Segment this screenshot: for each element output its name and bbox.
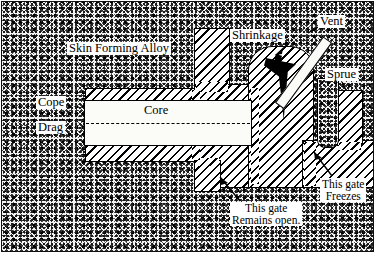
label-shrinkage: Shrinkage [230, 29, 285, 42]
label-gate-open-line1: This gate [232, 202, 300, 214]
label-vent: Vent [318, 15, 345, 28]
sprue-leader [342, 82, 346, 90]
label-gate-freeze-line1: This gate [322, 178, 364, 190]
casting-diagram-figure: Skin Forming Alloy Cope Drag Core Shrink… [0, 0, 377, 255]
gate-open-arrowhead [220, 177, 228, 185]
label-gate-open-line2: Remains open. [232, 214, 300, 226]
label-gate-freezes: This gate Freezes [320, 178, 366, 202]
label-gate-remains-open: This gate Remains open. [230, 202, 302, 226]
label-core: Core [142, 104, 170, 117]
label-drag: Drag [36, 121, 65, 134]
label-sprue: Sprue [325, 68, 358, 81]
label-skin-forming-alloy: Skin Forming Alloy [67, 42, 171, 55]
gate-freeze-arrowhead [314, 152, 322, 160]
diagram-frame: Skin Forming Alloy Cope Drag Core Shrink… [1, 1, 374, 252]
label-cope: Cope [36, 96, 66, 109]
label-gate-freeze-line2: Freezes [322, 190, 364, 202]
